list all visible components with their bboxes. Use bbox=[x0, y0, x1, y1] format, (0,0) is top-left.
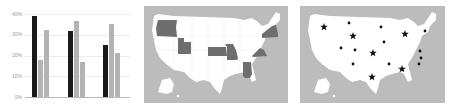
hawaii-land bbox=[333, 95, 335, 97]
map-markers bbox=[300, 6, 445, 103]
us-map-highlighted bbox=[144, 6, 288, 103]
state-kansas bbox=[208, 47, 227, 56]
dot-marker-icon bbox=[380, 26, 383, 29]
dot-marker-icon bbox=[418, 63, 421, 66]
map-highlighted-states bbox=[144, 6, 288, 103]
bar bbox=[44, 30, 49, 97]
alaska-land bbox=[314, 78, 330, 94]
y-tick-40: 40% bbox=[2, 11, 22, 17]
bar bbox=[32, 16, 37, 97]
dot-marker-icon bbox=[388, 63, 391, 66]
bar-chart: 40% 30% 20% 10% 0% bbox=[0, 0, 140, 110]
dot-marker-icon bbox=[348, 22, 351, 25]
state-oregon bbox=[156, 20, 177, 37]
bar bbox=[109, 24, 114, 97]
dot-marker-icon bbox=[420, 57, 423, 60]
bar bbox=[74, 21, 79, 97]
us-map-markers bbox=[300, 6, 445, 103]
hawaii-land bbox=[177, 95, 179, 97]
bar bbox=[115, 53, 120, 97]
x-axis-baseline bbox=[25, 97, 130, 98]
dot-marker-icon bbox=[424, 30, 427, 33]
bar bbox=[38, 60, 43, 97]
dot-marker-icon bbox=[340, 47, 343, 50]
dot-marker-icon bbox=[352, 63, 355, 66]
y-tick-0: 0% bbox=[2, 94, 22, 100]
y-tick-30: 30% bbox=[2, 31, 22, 37]
bar bbox=[103, 45, 108, 97]
dot-marker-icon bbox=[354, 49, 357, 52]
state-alabama bbox=[243, 62, 252, 78]
y-tick-10: 10% bbox=[2, 73, 22, 79]
alaska-land bbox=[158, 78, 174, 94]
gridline bbox=[25, 14, 130, 15]
y-tick-20: 20% bbox=[2, 52, 22, 58]
bar bbox=[80, 62, 85, 97]
bar bbox=[68, 31, 73, 97]
dot-marker-icon bbox=[383, 41, 386, 44]
dot-marker-icon bbox=[419, 50, 422, 53]
